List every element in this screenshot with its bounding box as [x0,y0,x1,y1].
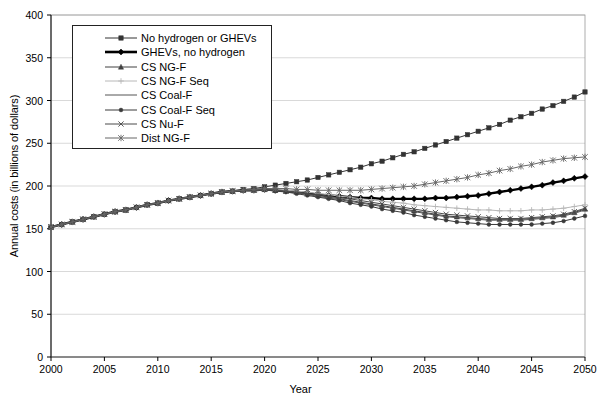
legend-item-cs-ng-f[interactable]: CS NG-F [73,60,271,74]
y-tick-label: 150 [1,224,43,234]
legend-marker-plus-icon [103,74,139,88]
legend-item-dist-ng-f[interactable]: Dist NG-F [73,131,271,145]
x-tick-label: 2005 [82,364,126,374]
y-tick-label: 250 [1,138,43,148]
x-tick-label: 2030 [349,364,393,374]
legend-label: GHEVs, no hydrogen [139,46,245,58]
series-ghevs-no-hydrogen [48,174,588,230]
x-tick-label: 2010 [136,364,180,374]
legend-item-ghevs-no-hydrogen[interactable]: GHEVs, no hydrogen [73,45,271,59]
legend-marker-star-icon [103,131,139,145]
y-tick-label: 400 [1,10,43,20]
x-axis-title: Year [0,383,601,395]
legend-label: Dist NG-F [139,132,190,144]
legend-marker-none-icon [103,88,139,102]
legend-label: CS Coal-F Seq [139,104,215,116]
legend-label: No hydrogen or GHEVs [139,32,257,44]
legend-label: CS Nu-F [139,118,184,130]
x-tick-label: 2025 [296,364,340,374]
chart-legend: No hydrogen or GHEVsGHEVs, no hydrogenCS… [72,25,272,149]
legend-marker-x-icon [103,117,139,131]
x-tick-label: 2050 [563,364,601,374]
x-tick-label: 2020 [243,364,287,374]
legend-marker-diamond-icon [103,45,139,59]
legend-label: CS Coal-F [139,89,192,101]
y-axis-title: Annual costs (in billions of dollars) [8,76,20,276]
legend-item-cs-ng-f-seq[interactable]: CS NG-F Seq [73,74,271,88]
y-tick-label: 300 [1,96,43,106]
x-tick-label: 2015 [189,364,233,374]
y-tick-label: 0 [1,352,43,362]
x-tick-label: 2040 [456,364,500,374]
x-tick-label: 2035 [403,364,447,374]
legend-label: CS NG-F [139,61,186,73]
legend-item-no-hydrogen-or-ghevs[interactable]: No hydrogen or GHEVs [73,31,271,45]
y-tick-label: 100 [1,267,43,277]
legend-marker-square-icon [103,31,139,45]
legend-item-cs-nu-f[interactable]: CS Nu-F [73,117,271,131]
chart-figure: Annual costs (in billions of dollars) Ye… [0,0,601,403]
legend-item-cs-coal-f-seq[interactable]: CS Coal-F Seq [73,102,271,116]
legend-item-cs-coal-f[interactable]: CS Coal-F [73,88,271,102]
legend-label: CS NG-F Seq [139,75,209,87]
x-tick-label: 2000 [29,364,73,374]
y-tick-label: 350 [1,53,43,63]
legend-marker-dot-icon [103,103,139,117]
legend-marker-triangle-icon [103,60,139,74]
y-tick-label: 50 [1,309,43,319]
x-tick-label: 2045 [510,364,554,374]
y-tick-label: 200 [1,181,43,191]
